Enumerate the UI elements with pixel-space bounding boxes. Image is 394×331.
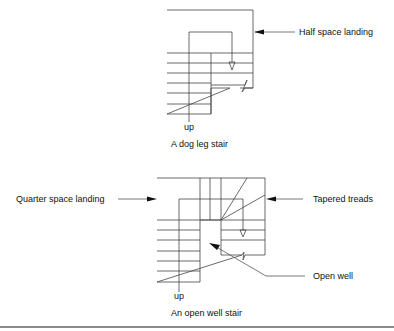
quarter-space-landing-label: Quarter space landing (16, 195, 105, 204)
open-well-stair-plan (157, 178, 265, 292)
bottom-up-label: up (174, 292, 184, 301)
top-up-label: up (184, 123, 194, 132)
dog-leg-caption: A dog leg stair (171, 140, 228, 149)
tapered-treads-label: Tapered treads (313, 195, 373, 204)
open-well-label: Open well (313, 272, 353, 281)
half-space-landing-label: Half space landing (299, 28, 373, 37)
open-well-caption: An open well stair (171, 309, 242, 318)
stair-diagrams (0, 0, 394, 331)
dog-leg-stair-plan (167, 10, 253, 122)
bottom-rule (0, 326, 394, 328)
